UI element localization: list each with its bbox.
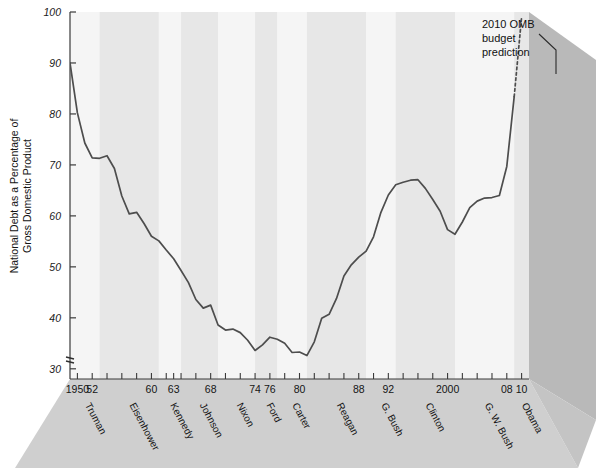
y-tick-label: 70: [49, 159, 61, 171]
chart-figure: 30405060708090100 1950526063687476808892…: [0, 0, 614, 474]
x-tick-label: 60: [146, 383, 158, 395]
annotation-line3: prediction: [482, 46, 530, 58]
x-tick-label: 52: [86, 383, 98, 395]
y-tick-label: 100: [43, 6, 61, 18]
x-tick-label: 76: [264, 383, 276, 395]
y-axis-title: National Debt as a Percentage of Gross D…: [8, 119, 33, 274]
x-tick-label: 92: [382, 383, 394, 395]
president-term-stripe: [255, 12, 277, 379]
x-tick-label: 88: [353, 383, 365, 395]
y-axis-title-line1: National Debt as a Percentage of: [8, 119, 20, 274]
plot-background: [70, 12, 529, 379]
y-tick-label: 90: [49, 57, 61, 69]
president-term-stripe: [277, 12, 307, 379]
x-tick-label: 63: [168, 383, 180, 395]
annotation-line2: budget: [482, 32, 516, 44]
x-tick-label: 08: [501, 383, 513, 395]
president-term-stripe: [307, 12, 366, 379]
chart-svg: 30405060708090100 1950526063687476808892…: [0, 0, 614, 474]
president-term-stripe: [70, 12, 100, 379]
y-tick-label: 40: [49, 312, 61, 324]
x-tick-label: 74: [249, 383, 261, 395]
president-term-stripe: [455, 12, 514, 379]
president-term-stripe: [396, 12, 455, 379]
x-tick-label: 80: [294, 383, 306, 395]
y-tick-label: 80: [49, 108, 61, 120]
president-term-stripe: [366, 12, 396, 379]
y-tick-label: 60: [49, 210, 61, 222]
annotation-line1: 2010 OMB: [482, 18, 535, 30]
y-tick-label: 50: [49, 261, 61, 273]
x-tick-label: 2000: [436, 383, 460, 395]
y-tick-label: 30: [49, 363, 61, 375]
president-term-stripe: [100, 12, 159, 379]
x-tick-label: 10: [516, 383, 528, 395]
president-term-stripe: [159, 12, 181, 379]
y-tick-labels: 30405060708090100: [43, 6, 61, 375]
y-axis-title-line2: Gross Domestic Product: [21, 139, 33, 253]
president-term-stripe: [181, 12, 218, 379]
x-tick-label: 68: [205, 383, 217, 395]
president-term-stripe: [218, 12, 255, 379]
